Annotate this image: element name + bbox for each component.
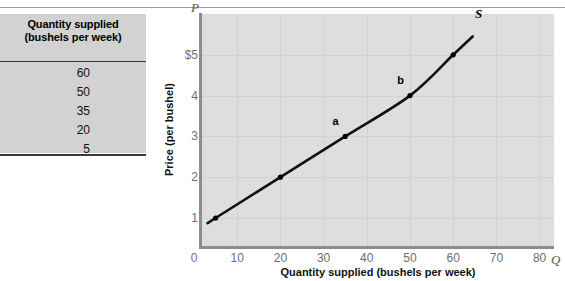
data-point-marker <box>407 93 412 98</box>
y-axis-title: Price (per bushel) <box>163 70 179 190</box>
data-point-marker <box>213 215 218 220</box>
point-label-s: S <box>475 8 482 19</box>
supply-curve-path <box>208 36 473 223</box>
supply-curve-chart: P Q $54321 01020304050607080 abS Price (… <box>0 0 565 281</box>
data-point-marker <box>451 52 456 57</box>
point-label-a: a <box>333 116 339 127</box>
supply-curve-svg <box>0 0 565 281</box>
point-label-b: b <box>397 75 404 86</box>
data-point-marker <box>278 175 283 180</box>
x-axis-title: Quantity supplied (bushels per week) <box>202 266 554 278</box>
data-point-marker <box>343 134 348 139</box>
